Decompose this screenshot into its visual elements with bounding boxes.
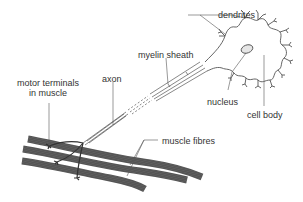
label-motor-terminals-line1: motor terminals xyxy=(12,78,84,88)
label-motor-terminals-line2: in muscle xyxy=(12,88,84,98)
neuron-diagram: dendrites myelin sheath axon motor termi… xyxy=(0,0,303,202)
cell-body xyxy=(205,10,293,88)
label-nucleus: nucleus xyxy=(207,97,238,107)
label-axon: axon xyxy=(102,74,122,84)
label-muscle-fibres: muscle fibres xyxy=(162,136,215,146)
label-myelin-sheath: myelin sheath xyxy=(138,50,194,60)
label-cell-body: cell body xyxy=(247,110,283,120)
neuron-illustration xyxy=(0,0,303,202)
nucleus-shape xyxy=(240,43,254,55)
label-dendrites: dendrites xyxy=(218,10,255,20)
label-motor-terminals: motor terminals in muscle xyxy=(12,78,84,98)
